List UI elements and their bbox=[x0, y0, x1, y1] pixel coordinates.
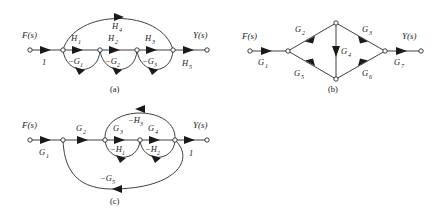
svg-text:H: H bbox=[144, 33, 152, 43]
diagram-a-label-g1: −G 1 bbox=[68, 56, 83, 68]
diagram-a-node-1 bbox=[61, 48, 65, 52]
diagram-c-node-output bbox=[205, 138, 209, 142]
diagram-c-arrow-g2 bbox=[77, 136, 88, 144]
diagram-b-arrow-g7 bbox=[396, 47, 407, 55]
diagram-b-arrow-g4 bbox=[332, 46, 340, 57]
svg-text:−G: −G bbox=[100, 173, 112, 183]
diagram-c-node-input bbox=[28, 138, 32, 142]
svg-text:G: G bbox=[258, 57, 264, 67]
svg-text:H: H bbox=[181, 58, 189, 68]
svg-text:2: 2 bbox=[83, 129, 86, 135]
svg-text:4: 4 bbox=[348, 52, 351, 58]
svg-text:1: 1 bbox=[46, 153, 49, 159]
svg-text:−G: −G bbox=[105, 56, 117, 66]
svg-text:1: 1 bbox=[80, 62, 83, 68]
diagram-a-label-g3: −G 3 bbox=[142, 56, 157, 68]
diagram-a-label-h2: H 2 bbox=[107, 33, 118, 45]
diagram-c-output-label: Y(s) bbox=[193, 120, 208, 130]
diagram-a-label-input-gain: 1 bbox=[42, 57, 46, 67]
diagram-a-node-3 bbox=[135, 48, 139, 52]
diagram-c: F(s) Y(s) G 1 G 2 G 3 G 4 1 −H 3 −H 1 −H bbox=[21, 105, 209, 206]
diagram-b-arrow-g3 bbox=[358, 36, 368, 44]
svg-text:2: 2 bbox=[115, 39, 118, 45]
diagram-a-arrow-h1 bbox=[72, 46, 83, 54]
diagram-b-caption: (b) bbox=[328, 84, 338, 94]
svg-text:−H: −H bbox=[145, 144, 158, 154]
diagram-b-node-output bbox=[419, 49, 423, 53]
diagram-c-label-h2: −H 2 bbox=[145, 144, 160, 156]
svg-text:1: 1 bbox=[78, 39, 81, 45]
diagram-b-label-g2: G 2 bbox=[295, 24, 305, 36]
diagram-b-node-bottom bbox=[334, 77, 338, 81]
diagram-c-arrow-output bbox=[184, 136, 195, 144]
diagram-a-node-input bbox=[28, 48, 32, 52]
svg-text:2: 2 bbox=[117, 62, 120, 68]
svg-text:−G: −G bbox=[142, 56, 154, 66]
diagram-a-arrow-g1 bbox=[75, 67, 85, 75]
svg-text:3: 3 bbox=[368, 30, 372, 36]
diagram-a-arrow-g2 bbox=[112, 67, 122, 75]
svg-text:G: G bbox=[76, 123, 82, 133]
svg-text:3: 3 bbox=[153, 62, 157, 68]
diagram-c-arrow-h1 bbox=[116, 155, 126, 163]
svg-text:4: 4 bbox=[119, 27, 122, 33]
diagram-b-label-g7: G 7 bbox=[394, 57, 405, 69]
svg-text:3: 3 bbox=[119, 129, 123, 135]
svg-text:1: 1 bbox=[122, 150, 125, 156]
diagram-c-arrow-g1 bbox=[40, 136, 51, 144]
diagram-a-arrow-h5 bbox=[183, 46, 194, 54]
diagram-a-arrow-1 bbox=[40, 46, 51, 54]
diagram-a-label-g2: −G 2 bbox=[105, 56, 120, 68]
diagram-b-arrow-g1 bbox=[261, 47, 272, 55]
svg-text:G: G bbox=[362, 68, 368, 78]
svg-text:5: 5 bbox=[112, 179, 115, 185]
diagram-a-label-h3: H 3 bbox=[144, 33, 155, 45]
diagram-a-arrow-h4 bbox=[114, 13, 124, 21]
diagram-b-label-g6: G 6 bbox=[362, 68, 372, 80]
diagram-c-label-g4: G 4 bbox=[148, 123, 158, 135]
diagram-b-label-g5: G 5 bbox=[294, 68, 304, 80]
diagram-b-arrow-g6 bbox=[358, 59, 368, 67]
diagram-b: F(s) Y(s) G 1 G 2 G 3 G 4 G 5 G 6 G 7 bbox=[241, 21, 423, 94]
diagram-a: F(s) Y(s) 1 H 1 H 2 H 3 H 5 H 4 −G 1 −G … bbox=[21, 13, 209, 94]
svg-text:G: G bbox=[113, 123, 119, 133]
diagram-c-arrow-g5 bbox=[112, 185, 122, 193]
diagram-b-node-right bbox=[383, 49, 387, 53]
svg-text:2: 2 bbox=[157, 150, 160, 156]
diagram-c-label-output-gain: 1 bbox=[189, 148, 193, 158]
diagram-a-node-4 bbox=[171, 48, 175, 52]
diagram-c-label-g3: G 3 bbox=[113, 123, 123, 135]
diagram-b-node-left bbox=[286, 49, 290, 53]
diagram-a-output-label: Y(s) bbox=[193, 30, 208, 40]
diagram-b-label-g3: G 3 bbox=[362, 24, 372, 36]
diagram-a-arrow-h2 bbox=[109, 46, 120, 54]
diagram-a-node-output bbox=[205, 48, 209, 52]
diagram-a-label-h4: H 4 bbox=[111, 21, 122, 33]
diagram-c-label-g5: −G 5 bbox=[100, 173, 115, 185]
diagram-c-edge-g5 bbox=[63, 140, 183, 189]
diagram-c-label-h1: −H 1 bbox=[110, 144, 125, 156]
svg-text:7: 7 bbox=[401, 63, 405, 69]
diagram-c-input-label: F(s) bbox=[21, 120, 37, 130]
diagram-c-label-g2: G 2 bbox=[76, 123, 86, 135]
diagram-c-node-3 bbox=[138, 138, 142, 142]
svg-text:6: 6 bbox=[369, 74, 372, 80]
diagram-c-node-1 bbox=[61, 138, 65, 142]
svg-text:1: 1 bbox=[265, 63, 268, 69]
svg-text:4: 4 bbox=[155, 129, 158, 135]
diagram-c-node-4 bbox=[173, 138, 177, 142]
svg-text:G: G bbox=[341, 46, 347, 56]
svg-text:G: G bbox=[294, 68, 300, 78]
svg-text:G: G bbox=[295, 24, 301, 34]
svg-text:2: 2 bbox=[302, 30, 305, 36]
diagram-b-input-label: F(s) bbox=[241, 31, 257, 41]
diagram-b-label-g1: G 1 bbox=[258, 57, 268, 69]
svg-text:5: 5 bbox=[189, 64, 192, 70]
diagram-c-arrow-g4 bbox=[149, 136, 160, 144]
signal-flow-graph-figure: F(s) Y(s) 1 H 1 H 2 H 3 H 5 H 4 −G 1 −G … bbox=[0, 0, 432, 210]
diagram-a-arrow-g3 bbox=[148, 67, 158, 75]
diagram-a-caption: (a) bbox=[110, 84, 120, 94]
svg-text:3: 3 bbox=[151, 39, 155, 45]
svg-text:H: H bbox=[111, 21, 119, 31]
diagram-a-arrow-h3 bbox=[146, 46, 157, 54]
